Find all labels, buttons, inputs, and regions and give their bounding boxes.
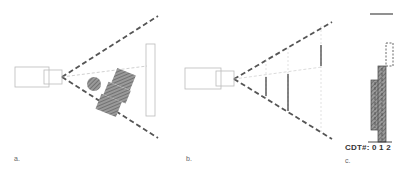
view-frustum	[234, 22, 332, 139]
bar-cdt-2	[386, 43, 393, 66]
depth-guides	[266, 26, 321, 133]
camera-icon	[185, 68, 234, 89]
back-plane	[146, 44, 155, 116]
cdt-label: CDT#:	[345, 143, 370, 152]
cdt-tick-2: 2	[386, 143, 391, 152]
cdt-tick-0: 0	[372, 143, 377, 152]
panel-b-label: b.	[186, 155, 192, 162]
box-occluders	[95, 66, 136, 118]
panel-a-label: a.	[14, 155, 20, 162]
circle-occluder	[87, 77, 101, 91]
panel-b	[185, 22, 332, 139]
panel-a	[15, 16, 158, 138]
cdt-tick-1: 1	[379, 143, 384, 152]
histogram	[368, 43, 393, 142]
panel-c	[368, 14, 393, 142]
panel-c-label: c.	[345, 157, 350, 164]
view-frustum	[62, 16, 158, 138]
depth-segments	[266, 45, 321, 111]
cdt-axis-label: CDT#: 0 1 2	[345, 143, 391, 152]
camera-icon	[15, 67, 62, 87]
